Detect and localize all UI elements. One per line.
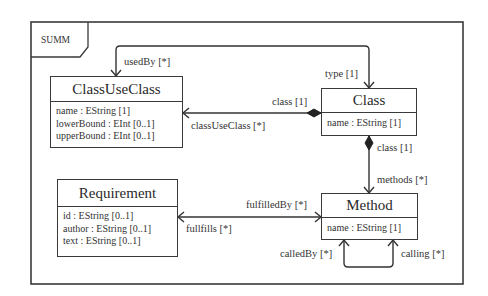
attribute: text : EString [0..1]	[63, 235, 173, 248]
attribute-list: name : EString [1] lowerBound : EInt [0.…	[51, 102, 182, 145]
attribute-list: name : EString [1]	[322, 113, 416, 132]
attribute: name : EString [1]	[327, 117, 412, 130]
role-label-type: type [1]	[325, 69, 358, 80]
connector-method-selfloop	[344, 240, 393, 267]
attribute: name : EString [1]	[56, 105, 178, 118]
role-label-class-method: class [1]	[377, 143, 412, 154]
attribute-list: name : EString [1]	[322, 218, 417, 237]
attribute: name : EString [1]	[327, 222, 413, 235]
class-name: Class	[322, 89, 416, 113]
class-box-class[interactable]: Class name : EString [1]	[321, 88, 417, 136]
role-label-calledby: calledBy [*]	[280, 249, 332, 260]
attribute: id : EString [0..1]	[63, 210, 173, 223]
role-label-classuseclass: classUseClass [*]	[191, 121, 265, 132]
role-label-fulfilledby: fulfilledBy [*]	[246, 200, 307, 211]
role-label-calling: calling [*]	[401, 249, 444, 260]
class-name: Method	[322, 194, 417, 218]
frame-label: SUMM	[41, 36, 70, 46]
class-box-classuseclass[interactable]: ClassUseClass name : EString [1] lowerBo…	[50, 76, 183, 148]
attribute-list: id : EString [0..1] author : EString [0.…	[58, 207, 177, 250]
class-box-requirement[interactable]: Requirement id : EString [0..1] author :…	[57, 179, 178, 257]
class-box-method[interactable]: Method name : EString [1]	[321, 193, 418, 240]
class-name: Requirement	[58, 180, 177, 207]
composition-diamond-icon	[365, 136, 373, 150]
role-label-methods: methods [*]	[377, 175, 427, 186]
role-label-class: class [1]	[272, 97, 307, 108]
role-label-fullfills: fullfills [*]	[186, 224, 232, 235]
class-name: ClassUseClass	[51, 77, 182, 102]
attribute: upperBound : EInt [0..1]	[56, 130, 178, 143]
composition-diamond-icon	[307, 109, 321, 117]
attribute: author : EString [0..1]	[63, 223, 173, 236]
attribute: lowerBound : EInt [0..1]	[56, 118, 178, 131]
role-label-usedby: usedBy [*]	[124, 57, 170, 68]
